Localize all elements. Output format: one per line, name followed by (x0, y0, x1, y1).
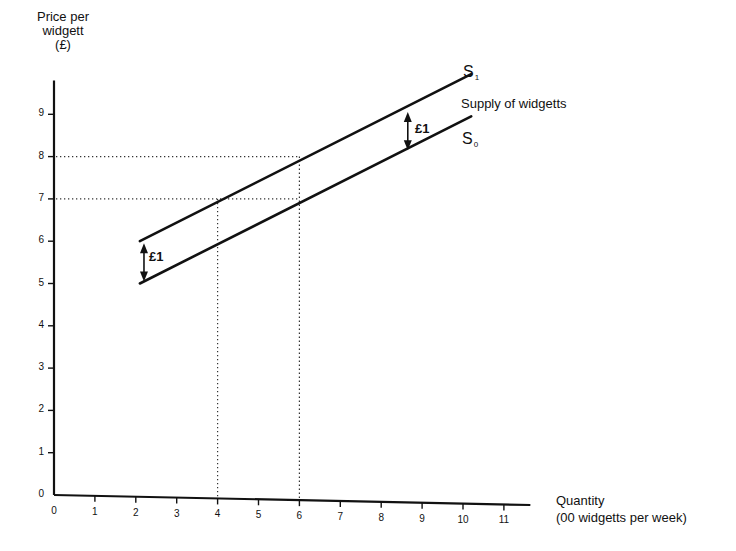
x-tick-label: 11 (494, 514, 514, 525)
supply-chart (0, 0, 736, 551)
y-tick-label: 2 (30, 403, 44, 414)
x-tick-label: 6 (289, 510, 309, 521)
y-tick-label: 0 (30, 488, 44, 499)
x-tick-label: 1 (85, 506, 105, 517)
y-tick-label: 1 (30, 446, 44, 457)
shift-arrows (140, 112, 412, 281)
x-axis-label-line1: Quantity (556, 492, 687, 509)
x-tick-label: 10 (453, 514, 473, 525)
y-tick-label: 5 (30, 277, 44, 288)
x-tick-label: 7 (330, 511, 350, 522)
reference-lines (56, 157, 299, 501)
x-tick-label: 8 (371, 512, 391, 523)
s1-letter: S (463, 63, 474, 80)
y-tick-label: 7 (30, 192, 44, 203)
x-tick-label: 9 (412, 513, 432, 524)
y-axis-label-line3: (£) (18, 38, 108, 52)
supply-curve-s1 (140, 74, 471, 241)
s0-subscript: 0 (474, 140, 478, 149)
x-tick-label: 5 (249, 509, 269, 520)
x-tick-label: 4 (208, 508, 228, 519)
x-axis-label: Quantity (00 widgetts per week) (556, 492, 687, 526)
shift-label-right: £1 (415, 121, 429, 136)
s0-label: S0 (462, 131, 478, 152)
s1-label: S1 (463, 64, 479, 85)
x-tick-label: 3 (167, 508, 187, 519)
y-axis-label-line2: widgett (18, 24, 108, 38)
y-tick-label: 4 (30, 319, 44, 330)
y-tick-label: 3 (30, 361, 44, 372)
supply-curve-s0 (140, 116, 471, 283)
arrow-head-up-icon (404, 112, 412, 122)
y-axis-label: Price per widgett (£) (18, 10, 108, 52)
y-tick-label: 8 (30, 150, 44, 161)
s0-letter: S (462, 130, 473, 147)
x-tick-label: 0 (44, 505, 64, 516)
s1-subscript: 1 (475, 73, 479, 82)
supply-title: Supply of widgetts (461, 96, 567, 111)
supply-curves (140, 74, 471, 283)
y-axis-label-line1: Price per (18, 10, 108, 24)
x-axis-label-line2: (00 widgetts per week) (556, 509, 687, 526)
x-tick-label: 2 (126, 507, 146, 518)
shift-label-left: £1 (149, 249, 163, 264)
arrow-head-up-icon (140, 243, 148, 253)
y-tick-label: 9 (30, 107, 44, 118)
axes (48, 80, 530, 510)
x-axis-line (54, 495, 530, 505)
y-tick-label: 6 (30, 234, 44, 245)
